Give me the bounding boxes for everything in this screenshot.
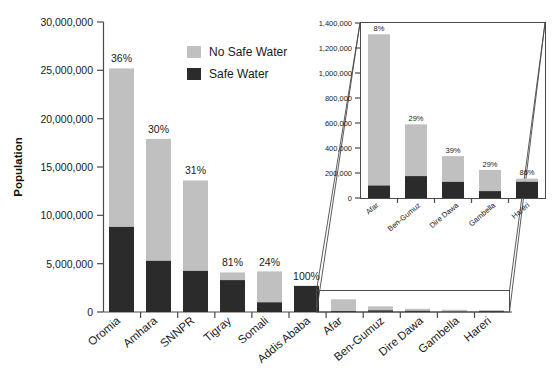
inset-bar-label-hareri: 86% [519, 168, 534, 177]
inset-bar-safe-hareri[interactable] [516, 182, 538, 198]
bar-nosafe-afar-main[interactable] [331, 299, 356, 311]
bar-label-oromia: 36% [111, 52, 132, 64]
main-y-axis-title: Population [12, 137, 24, 196]
inset-xtick-label-dire-dawa: Dire Dawa [428, 200, 461, 230]
bar-group-ben-gumuz-main[interactable] [368, 306, 393, 312]
inset-ytick-label-0: 0 [348, 194, 352, 203]
legend-label-safe-water: Safe Water [209, 67, 269, 81]
inset-bar-group-ben-gumuz[interactable]: 29% [405, 114, 427, 198]
bar-label-tigray: 81% [222, 256, 243, 268]
inset-bar-safe-ben-gumuz[interactable] [405, 176, 427, 198]
bar-safe-snnpr[interactable] [183, 271, 208, 312]
inset-chart: 1,400,000 1,200,000 1,000,000 800,000 60… [319, 19, 546, 233]
inset-ytick-label-400000: 400,000 [325, 144, 352, 153]
bar-group-afar-main[interactable] [331, 299, 356, 312]
main-ytick-label-0: 0 [87, 306, 93, 318]
main-xtick-label-somali: Somali [236, 314, 271, 346]
figure-container: 30,000,000 25,000,000 20,000,000 15,000,… [0, 0, 555, 383]
main-xtick-label-snnpr: SNNPR [158, 314, 197, 349]
bar-nosafe-dire-dawa-main[interactable] [405, 309, 430, 311]
inset-bar-nosafe-ben-gumuz[interactable] [405, 124, 427, 176]
main-xtick-label-oromia: Oromia [86, 314, 123, 348]
bar-safe-tigray[interactable] [220, 280, 245, 312]
main-ytick-label-5m: 5,000,000 [46, 258, 93, 270]
inset-bar-group-hareri[interactable]: 86% [516, 168, 538, 198]
bar-nosafe-snnpr[interactable] [183, 181, 208, 271]
inset-ytick-label-600000: 600,000 [325, 119, 352, 128]
inset-bar-nosafe-dire-dawa[interactable] [442, 156, 464, 182]
bar-group-snnpr[interactable]: 31% [183, 164, 208, 312]
main-y-ticks [97, 22, 104, 312]
bar-group-amhara[interactable]: 30% [146, 123, 171, 313]
inset-bar-nosafe-hareri[interactable] [516, 179, 538, 182]
bar-group-tigray[interactable]: 81% [220, 256, 245, 312]
inset-bar-label-ben-gumuz: 29% [408, 114, 423, 123]
inset-ytick-label-1200000: 1,200,000 [319, 44, 352, 53]
bar-nosafe-amhara[interactable] [146, 139, 171, 261]
main-xtick-label-dire-dawa: Dire Dawa [376, 314, 425, 358]
main-ytick-label-15m: 15,000,000 [40, 161, 93, 173]
inset-bar-nosafe-gambella[interactable] [479, 170, 501, 191]
bar-nosafe-somali[interactable] [257, 271, 282, 302]
inset-bar-nosafe-afar[interactable] [368, 34, 390, 185]
bar-nosafe-oromia[interactable] [109, 68, 134, 227]
main-xtick-label-tigray: Tigray [201, 314, 233, 344]
main-chart: 30,000,000 25,000,000 20,000,000 15,000,… [12, 16, 512, 365]
main-ytick-label-25m: 25,000,000 [40, 64, 93, 76]
inset-ytick-label-1400000: 1,400,000 [319, 19, 352, 28]
bar-safe-amhara[interactable] [146, 261, 171, 312]
inset-bar-label-dire-dawa: 39% [445, 146, 460, 155]
zoom-connector-lines [317, 23, 546, 312]
legend: No Safe Water Safe Water [187, 45, 287, 81]
inset-ytick-label-200000: 200,000 [325, 169, 352, 178]
chart-svg: 30,000,000 25,000,000 20,000,000 15,000,… [0, 0, 555, 383]
main-ytick-label-20m: 20,000,000 [40, 113, 93, 125]
main-xtick-label-gambella: Gambella [416, 314, 462, 355]
inset-bar-group-gambella[interactable]: 29% [479, 160, 501, 198]
bar-group-somali[interactable]: 24% [257, 256, 282, 312]
inset-bar-group-afar[interactable]: 8% [368, 24, 390, 198]
bar-group-addis-ababa[interactable]: 100% [293, 270, 320, 313]
bar-label-amhara: 30% [148, 123, 169, 135]
inset-bar-safe-dire-dawa[interactable] [442, 182, 464, 198]
bar-safe-addis-ababa[interactable] [294, 286, 319, 312]
inset-bar-label-gambella: 29% [482, 160, 497, 169]
inset-bar-group-dire-dawa[interactable]: 39% [442, 146, 464, 198]
inset-ytick-label-1000000: 1,000,000 [319, 69, 352, 78]
main-ytick-label-10m: 10,000,000 [40, 209, 93, 221]
main-xtick-label-afar: Afar [320, 314, 344, 337]
bar-label-somali: 24% [259, 256, 280, 268]
main-ytick-label-30m: 30,000,000 [40, 16, 93, 28]
bar-label-addis-ababa: 100% [293, 270, 320, 282]
main-xtick-label-amhara: Amhara [121, 314, 160, 349]
inset-xtick-label-gambella: Gambella [467, 200, 498, 228]
inset-xtick-label-ben-gumuz: Ben-Gumuz [386, 200, 423, 233]
bar-nosafe-ben-gumuz-main[interactable] [368, 306, 393, 310]
bar-safe-oromia[interactable] [109, 227, 134, 312]
inset-bar-label-afar: 8% [374, 24, 385, 33]
main-xtick-label-hareri: Hareri [462, 314, 494, 343]
legend-swatch-no-safe-water [187, 46, 201, 58]
legend-label-no-safe-water: No Safe Water [209, 45, 287, 59]
inset-ytick-label-800000: 800,000 [325, 94, 352, 103]
bar-nosafe-gambella-main[interactable] [442, 310, 467, 312]
legend-swatch-safe-water [187, 68, 201, 80]
inset-bar-safe-afar[interactable] [368, 186, 390, 199]
inset-bar-safe-gambella[interactable] [479, 191, 501, 198]
bar-label-snnpr: 31% [185, 164, 206, 176]
bar-nosafe-tigray[interactable] [220, 272, 245, 280]
inset-xtick-label-afar: Afar [364, 200, 381, 216]
bar-group-oromia[interactable]: 36% [109, 52, 134, 312]
bar-safe-somali[interactable] [257, 302, 282, 312]
